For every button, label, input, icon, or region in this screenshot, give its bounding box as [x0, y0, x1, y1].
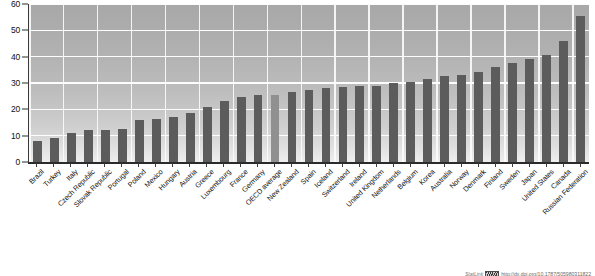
gridline-vertical	[233, 4, 235, 162]
bar	[118, 129, 127, 162]
statlink-label: StatLink	[465, 272, 483, 276]
x-axis-tick-mark	[274, 163, 275, 167]
gridline-vertical	[436, 4, 438, 162]
barcode-icon	[485, 271, 499, 276]
x-axis-tick-mark	[529, 163, 530, 167]
gridline-vertical	[301, 4, 303, 162]
x-axis-tick-mark	[36, 163, 37, 167]
x-axis-tick-mark	[240, 163, 241, 167]
y-axis-tick-label: 20	[11, 105, 20, 114]
bar	[576, 16, 585, 162]
x-axis-tick-mark	[478, 163, 479, 167]
y-axis: 0102030405060	[0, 4, 28, 162]
gridline-vertical	[504, 4, 506, 162]
x-axis-tick-mark	[70, 163, 71, 167]
bar	[271, 95, 280, 162]
bar	[135, 120, 144, 162]
bar	[67, 133, 76, 162]
bar	[423, 79, 432, 162]
x-axis-tick-mark	[121, 163, 122, 167]
bar	[440, 76, 449, 162]
bar	[339, 87, 348, 162]
bar	[101, 130, 110, 162]
x-axis-tick-mark	[393, 163, 394, 167]
gridline-vertical	[334, 4, 336, 162]
x-axis-tick-mark	[563, 163, 564, 167]
x-axis-tick-mark	[512, 163, 513, 167]
x-axis-tick-mark	[342, 163, 343, 167]
bar	[254, 95, 263, 162]
bar	[406, 82, 415, 162]
gridline-vertical	[368, 4, 370, 162]
x-axis-tick-mark	[376, 163, 377, 167]
x-axis-tick-mark	[546, 163, 547, 167]
y-axis-tick-label: 40	[11, 52, 20, 61]
bar	[33, 141, 42, 162]
x-axis-tick-mark	[461, 163, 462, 167]
figure: 0102030405060 BrazilTurkeyItalyCzech Rep…	[0, 0, 595, 276]
bar	[508, 63, 517, 162]
x-axis-tick-mark	[495, 163, 496, 167]
y-axis-tick-label: 50	[11, 26, 20, 35]
y-axis-tick-label: 60	[11, 0, 20, 8]
statlink-url[interactable]: http://dx.doi.org/10.1787/505980311822	[501, 272, 591, 276]
x-axis-tick-mark	[325, 163, 326, 167]
bar	[305, 90, 314, 162]
x-axis-tick-mark	[291, 163, 292, 167]
gridline-vertical	[29, 4, 31, 162]
statlink[interactable]: StatLink http://dx.doi.org/10.1787/50598…	[465, 271, 591, 276]
x-axis-tick-mark	[444, 163, 445, 167]
bar	[525, 59, 534, 162]
bar	[474, 72, 483, 162]
bar	[152, 119, 161, 162]
x-axis-tick-mark	[104, 163, 105, 167]
gridline-vertical	[131, 4, 133, 162]
bar	[372, 86, 381, 162]
bar	[203, 107, 212, 162]
y-axis-tick-label: 10	[11, 131, 20, 140]
figure-footer: StatLink http://dx.doi.org/10.1787/50598…	[0, 262, 595, 274]
x-axis-tick-mark	[580, 163, 581, 167]
gridline-vertical	[199, 4, 201, 162]
bar	[220, 101, 229, 162]
bar	[389, 83, 398, 162]
gridline-vertical	[538, 4, 540, 162]
bar	[50, 138, 59, 162]
bar	[237, 97, 246, 162]
bar	[186, 113, 195, 162]
x-axis-tick-mark	[87, 163, 88, 167]
x-axis-tick-mark	[410, 163, 411, 167]
y-axis-tick-label: 30	[11, 79, 20, 88]
bar	[322, 88, 331, 162]
x-axis-tick-mark	[223, 163, 224, 167]
gridline-vertical	[402, 4, 404, 162]
x-axis-tick-mark	[138, 163, 139, 167]
x-axis-tick-mark	[172, 163, 173, 167]
bar	[288, 92, 297, 162]
gridline-vertical	[165, 4, 167, 162]
gridline-vertical	[63, 4, 65, 162]
x-axis-tick-mark	[53, 163, 54, 167]
x-axis-tick-mark	[206, 163, 207, 167]
x-axis-tick-mark	[308, 163, 309, 167]
bar	[491, 67, 500, 162]
x-axis-labels: BrazilTurkeyItalyCzech RepublicSlovak Re…	[28, 168, 589, 268]
bar	[457, 75, 466, 162]
bar	[84, 130, 93, 162]
x-axis-tick-mark	[427, 163, 428, 167]
x-axis-tick-mark	[257, 163, 258, 167]
x-axis-tick-label: Turkey	[43, 168, 63, 188]
gridline-vertical	[470, 4, 472, 162]
gridline-vertical	[572, 4, 574, 162]
bar	[169, 117, 178, 162]
y-axis-tick-label: 0	[15, 158, 20, 167]
x-axis-tick-mark	[359, 163, 360, 167]
gridline-vertical	[267, 4, 269, 162]
bar	[559, 41, 568, 162]
bar	[542, 55, 551, 162]
gridline-vertical	[97, 4, 99, 162]
plot-area	[28, 4, 589, 162]
bar	[355, 86, 364, 162]
x-axis-tick-mark	[155, 163, 156, 167]
x-axis-tick-mark	[189, 163, 190, 167]
